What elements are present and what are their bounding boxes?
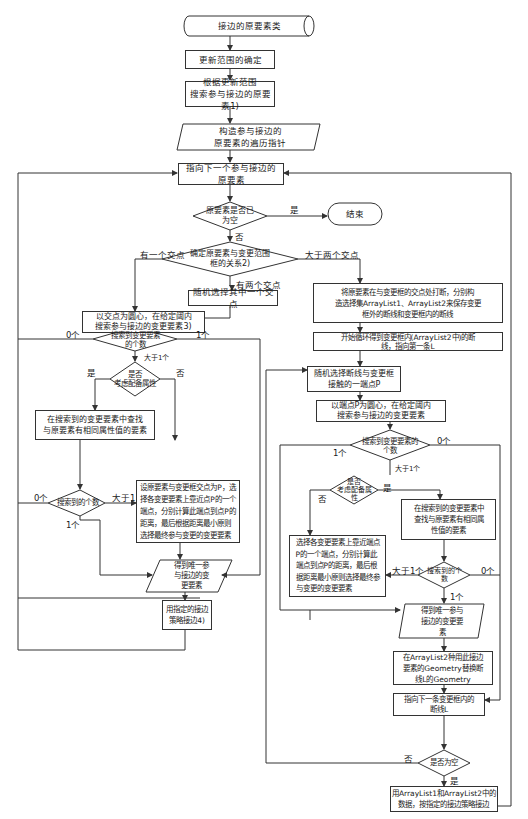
edge-label-no-attr-right: 否 — [318, 494, 327, 504]
consider-attr-r-label: 是否 考虑配备属 性 — [337, 478, 372, 502]
find-same-attr-label: 在搜索到的变更要素中查找 与原要素有相同属性值的要素 — [43, 414, 147, 436]
edge-label-one-right: 1个 — [333, 448, 347, 458]
count-changed-label: 搜索到变更要素 的个数 — [111, 331, 160, 349]
next-element-label: 指向下一个参与接边的原要素 — [179, 162, 283, 186]
end-label: 结束 — [346, 208, 364, 220]
count-found-r-decision: 搜索到的个 数 — [422, 566, 466, 584]
relation-decision: 确定原要素与变更范围 框的关系2) — [176, 246, 284, 272]
nearest-rule-label: 设原要素与变更框交点为P，选 择各变更要素上靠近点P的一个 端点，分别计算此端点… — [140, 482, 236, 542]
edge-label-one-found-left: 1个 — [66, 520, 80, 530]
build-iterator-node: 构造参与接边的 原要素的遍历指针 — [183, 124, 317, 150]
edge-label-more-than-one-left: 大于1个 — [144, 353, 169, 363]
search-by-endpoint-label: 以端点P为圆心，在给定阈内 搜索参与接边的变更要素 — [331, 401, 432, 421]
build-iterator-label: 构造参与接边的 原要素的遍历指针 — [214, 125, 286, 149]
unique-element-r-node: 得到唯一参与 接边的变更要 素 — [403, 604, 481, 638]
loop-start-box: 开始循环得到变更框内(ArrayList2中)的断 线，指向第一条L — [313, 332, 503, 351]
search-elements-label: 根据更新范围 搜索参与接边的原要素1) — [186, 76, 274, 112]
search-by-endpoint-box: 以端点P为圆心，在给定阈内 搜索参与接边的变更要素 — [316, 400, 446, 422]
nearest-rule-r-box: 选择各变更要素上靠近端点 P的一个端点，分别计算此 端点到点P的距离，最后根 据… — [289, 535, 386, 597]
edge-label-zero-found-right: 0个 — [481, 566, 495, 576]
edge-label-yes-attr-left: 是 — [87, 368, 96, 378]
update-range-label: 更新范围的确定 — [196, 54, 265, 66]
update-range-box: 更新范围的确定 — [185, 50, 275, 69]
edge-label-one-intersection: 有一个交点 — [140, 250, 185, 260]
edge-label-no-loop: 否 — [404, 754, 413, 764]
count-found-label: 搜索到的个数 — [57, 497, 99, 509]
random-pick-box: 随机选择其中一个交点 — [188, 290, 278, 306]
split-lines-box: 将原要素在与变更框的交点处打断，分别构 造选择集ArrayList1、Array… — [313, 283, 503, 323]
count-changed-r-decision: 搜索到变更要素的 个数 — [354, 436, 426, 456]
consider-attr-label: 是否 考虑配备属性 — [114, 370, 156, 388]
edge-label-one-found-right: 1个 — [450, 592, 464, 602]
next-element-box: 指向下一个参与接边的原要素 — [178, 163, 284, 185]
edge-label-more-than-1-found-left: 大于1 — [112, 493, 135, 503]
start-label: 接边的原要素类 — [215, 20, 284, 32]
unique-element-label: 得到唯一参 与接边的变 更要素 — [174, 561, 209, 591]
find-same-attr-r-label: 在搜索到的变更要素中 查找与原要素有相同属 性值的要素 — [414, 503, 484, 536]
count-found-decision: 搜索到的个数 — [52, 496, 104, 510]
edge-label-zero-found-left: 0个 — [34, 493, 48, 503]
search-by-point-label: 以交点为圆心，在给定阈内 搜索参与接边的变更要素3) — [95, 312, 191, 332]
random-endpoint-box: 随机选择断线与变更框 接触的一端点P — [307, 366, 401, 392]
edge-label-more-than-two: 大于两个交点 — [305, 250, 359, 260]
find-same-attr-box: 在搜索到的变更要素中查找 与原要素有相同属性值的要素 — [35, 410, 155, 440]
is-empty-label: 原要素是否已 为空 — [206, 206, 254, 226]
count-found-r-label: 搜索到的个 数 — [427, 567, 462, 583]
nearest-rule-r-label: 选择各变更要素上靠近端点 P的一个端点，分别计算此 端点到点P的距离，最后根 据… — [296, 537, 380, 595]
edge-label-yes-attr-right: 是 — [383, 483, 392, 493]
final-merge-label: 用ArrayList1和ArrayList2中的 数据，按指定的接边策略接边 — [392, 788, 496, 810]
is-empty-r-label: 是否为空 — [430, 757, 458, 769]
is-empty-r-decision: 是否为空 — [420, 757, 468, 769]
end-node: 结束 — [328, 203, 382, 225]
edge-strategy-box: 用指定的接边 策略接边4) — [162, 600, 212, 630]
replace-geometry-box: 在ArrayList2种用此接边 要素的Geometry替换断 线L的Geome… — [393, 651, 493, 685]
count-changed-decision: 搜索到变更要素 的个数 — [100, 330, 170, 350]
edge-label-no-relation: 否 — [235, 232, 244, 242]
edge-label-no-attr-left: 否 — [176, 368, 185, 378]
count-changed-r-label: 搜索到变更要素的 个数 — [362, 437, 418, 455]
next-line-label: 指向下一条变更框内的 断线L — [404, 695, 474, 715]
edge-label-zero-right: 0个 — [437, 436, 451, 446]
edge-label-yes-end: 是 — [290, 205, 299, 215]
final-merge-box: 用ArrayList1和ArrayList2中的 数据，按指定的接边策略接边 — [390, 786, 498, 812]
edge-label-two-intersections: 有两个交点 — [236, 280, 281, 290]
replace-geometry-label: 在ArrayList2种用此接边 要素的Geometry替换断 线L的Geome… — [403, 652, 483, 685]
find-same-attr-r-box: 在搜索到的变更要素中 查找与原要素有相同属 性值的要素 — [401, 499, 496, 540]
relation-label: 确定原要素与变更范围 框的关系2) — [190, 249, 270, 269]
edge-label-one-left: 1个 — [196, 330, 210, 340]
consider-attr-decision: 是否 考虑配备属性 — [112, 368, 158, 390]
edge-label-more-than-one-right: 大于1个 — [395, 464, 420, 474]
edge-label-zero-left: 0个 — [66, 330, 80, 340]
unique-element-r-label: 得到唯一参与 接边的变更要 素 — [421, 605, 463, 638]
edge-label-yes-final: 是 — [450, 776, 459, 786]
random-endpoint-label: 随机选择断线与变更框 接触的一端点P — [314, 368, 394, 390]
search-elements-box: 根据更新范围 搜索参与接边的原要素1) — [185, 81, 275, 107]
edge-label-more-than-one-found-right: 大于1个 — [392, 566, 424, 576]
split-lines-label: 将原要素在与变更框的交点处打断，分别构 造选择集ArrayList1、Array… — [335, 287, 481, 320]
unique-element-node: 得到唯一参 与接边的变 更要素 — [156, 560, 226, 592]
is-empty-decision: 原要素是否已 为空 — [196, 203, 264, 229]
nearest-rule-box: 设原要素与变更框交点为P，选 择各变更要素上靠近点P的一个 端点，分别计算此端点… — [136, 480, 240, 543]
edge-strategy-label: 用指定的接边 策略接边4) — [166, 604, 208, 626]
loop-start-label: 开始循环得到变更框内(ArrayList2中)的断 线，指向第一条L — [341, 333, 476, 351]
consider-attr-r-decision: 是否 考虑配备属 性 — [332, 478, 376, 502]
next-line-box: 指向下一条变更框内的 断线L — [393, 693, 485, 716]
start-node: 接边的原要素类 — [189, 16, 309, 36]
